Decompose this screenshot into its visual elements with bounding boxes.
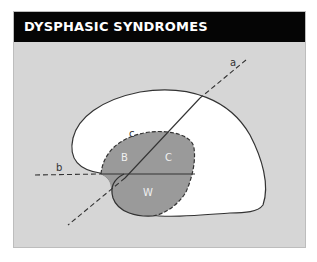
label-broca: B [121, 152, 128, 163]
label-conduction: C [165, 152, 172, 163]
label-b: b [56, 162, 62, 173]
line-a-dashed-top [200, 60, 246, 98]
label-wernicke: W [143, 187, 153, 198]
dysphasia-diagram: a b c B C W [0, 0, 317, 262]
label-a: a [230, 57, 236, 68]
label-c: c [129, 128, 135, 139]
line-b-dashed [35, 174, 100, 175]
